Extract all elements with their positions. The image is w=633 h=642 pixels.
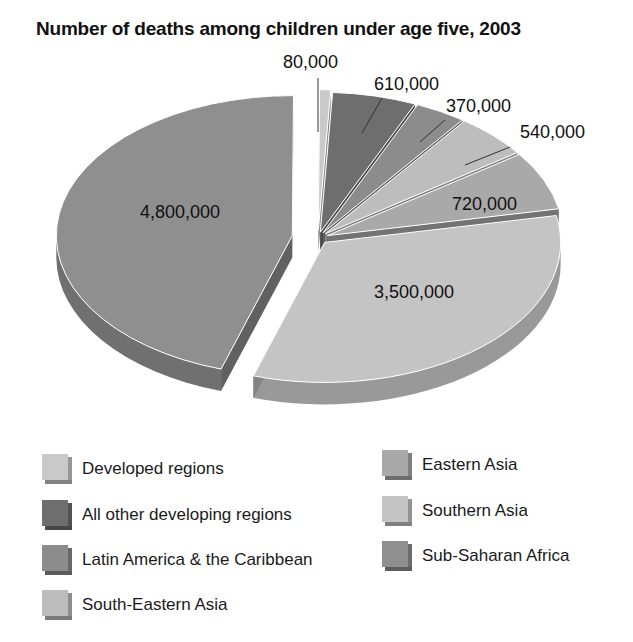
value-label: 610,000: [374, 74, 439, 94]
value-label: 80,000: [283, 52, 338, 72]
legend-swatch: [382, 541, 412, 571]
pie-chart: 80,000610,000370,000540,000720,0003,500,…: [0, 0, 633, 440]
legend-item-south-eastern-asia: South-Eastern Asia: [42, 588, 228, 622]
legend-item-sub-saharan-africa: Sub-Saharan Africa: [382, 539, 569, 573]
legend-label: Eastern Asia: [422, 455, 517, 475]
legend-swatch: [42, 454, 72, 484]
legend-swatch: [42, 500, 72, 530]
legend-swatch: [382, 450, 412, 480]
legend-swatch: [42, 590, 72, 620]
legend-label: All other developing regions: [82, 505, 292, 525]
legend-item-all-other-developing: All other developing regions: [42, 498, 292, 532]
legend-label: South-Eastern Asia: [82, 595, 228, 615]
value-label: 720,000: [452, 194, 517, 214]
legend-item-eastern-asia: Eastern Asia: [382, 448, 517, 482]
legend-label: Southern Asia: [422, 501, 528, 521]
legend-item-southern-asia: Southern Asia: [382, 494, 528, 528]
legend-item-latin-america: Latin America & the Caribbean: [42, 543, 313, 577]
value-label: 3,500,000: [374, 282, 454, 302]
value-label: 370,000: [446, 96, 511, 116]
legend-label: Developed regions: [82, 459, 224, 479]
legend-item-developed-regions: Developed regions: [42, 452, 224, 486]
value-label: 540,000: [520, 122, 585, 142]
legend-swatch: [42, 545, 72, 575]
legend-swatch: [382, 496, 412, 526]
pie-tops: [56, 90, 560, 383]
legend-label: Sub-Saharan Africa: [422, 546, 569, 566]
value-label: 4,800,000: [140, 202, 220, 222]
legend-label: Latin America & the Caribbean: [82, 550, 313, 570]
